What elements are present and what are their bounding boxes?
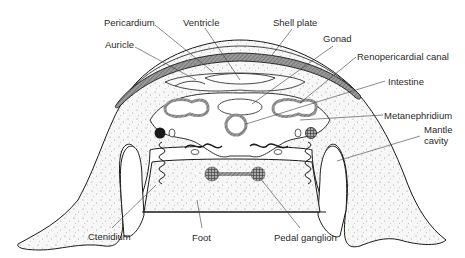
intestine [226, 115, 246, 135]
lateral-nerve-cord-right [306, 128, 317, 139]
intestine-loop-left [165, 100, 208, 117]
label-shell-plate: Shell plate [273, 17, 317, 28]
label-pericardium: Pericardium [104, 17, 155, 28]
label-renopericardial-canal: Renopericardial canal [357, 51, 449, 62]
mantle-cavity-left [120, 146, 144, 237]
label-intestine: Intestine [388, 76, 424, 87]
pedal-ganglion-right [251, 167, 265, 181]
gland-lobe [191, 150, 199, 155]
label-ventricle: Ventricle [183, 17, 219, 28]
label-gonad: Gonad [323, 33, 352, 44]
label-mantle-cavity-line2: cavity [424, 135, 453, 146]
metanephridium-right [295, 129, 301, 137]
mantle-cavity-right [318, 146, 347, 237]
chiton-cross-section-diagram [0, 0, 465, 258]
gland-lobe [274, 150, 282, 155]
label-mantle-cavity-line1: Mantle [424, 124, 453, 135]
label-mantle-cavity: Mantle cavity [424, 124, 453, 146]
label-metanephridium: Metanephridium [384, 110, 452, 121]
label-ctenidium: Ctenidium [88, 231, 131, 242]
label-auricle: Auricle [105, 39, 134, 50]
lateral-nerve-cord-left [155, 128, 166, 139]
foot [144, 159, 320, 212]
metanephridium-left [169, 129, 175, 137]
label-foot: Foot [192, 232, 211, 243]
pedal-ganglion-left [205, 167, 219, 181]
label-pedal-ganglion: Pedal ganglion [274, 232, 337, 243]
